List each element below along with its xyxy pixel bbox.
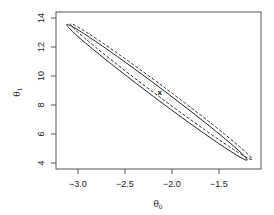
x-axis-label: θ0 [153,199,162,210]
y-tick-label: 10 [36,71,46,81]
y-tick-label: 6 [36,131,46,136]
x-tick-label: −1.5 [210,179,228,189]
y-tick-label: 8 [36,102,46,107]
center-marker: x [158,88,163,97]
y-tick-label: 4 [36,160,46,165]
x-tick-label: −3.0 [69,179,87,189]
y-axis: 468101214 [36,13,56,166]
y-tick-label: 12 [36,42,46,52]
x-tick-label: −2.0 [163,179,181,189]
x-axis: −3.0−2.5−2.0−1.5 [69,169,228,189]
contour-chart: −3.0−2.5−2.0−1.5 468101214 x θ0 θ1 [0,0,274,215]
y-tick-label: 14 [36,13,46,23]
x-tick-label: −2.5 [116,179,134,189]
y-axis-label: θ1 [12,87,23,96]
